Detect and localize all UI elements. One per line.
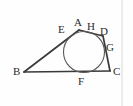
vertex-label-H: H <box>87 21 95 32</box>
vertex-label-D: D <box>100 26 108 37</box>
vertex-label-G: G <box>106 42 114 53</box>
vertex-label-E: E <box>58 24 65 35</box>
geometry-figure: A E H D G B F C <box>0 0 133 106</box>
vertex-label-B: B <box>13 66 20 77</box>
side-BC-line <box>24 71 110 72</box>
vertex-label-A: A <box>74 17 82 28</box>
vertex-label-C: C <box>113 66 120 77</box>
vertex-label-F: F <box>78 76 84 87</box>
inscribed-circle <box>64 32 105 73</box>
geometry-canvas <box>0 0 133 106</box>
